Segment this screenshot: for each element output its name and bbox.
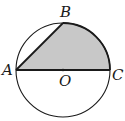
label-c: C <box>112 68 123 83</box>
diagram-canvas: B A O C <box>0 0 125 121</box>
label-o: O <box>59 74 71 89</box>
center-point-o <box>62 69 65 72</box>
label-b: B <box>60 5 71 20</box>
shaded-region <box>16 23 110 70</box>
label-a: A <box>2 63 13 78</box>
